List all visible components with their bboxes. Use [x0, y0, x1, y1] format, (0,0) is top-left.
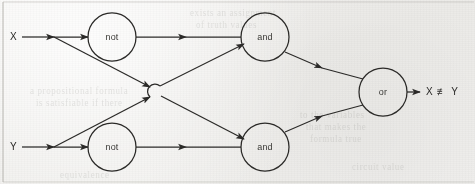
edge-and-bot-to-or	[285, 105, 363, 132]
input-label-y: Y	[10, 141, 17, 152]
node-or-label: or	[379, 87, 387, 97]
node-not-top-label: not	[105, 32, 118, 42]
edge-y-to-and-top	[54, 44, 244, 147]
node-and-bottom[interactable]: and	[241, 123, 289, 171]
page-border	[3, 2, 474, 182]
node-or[interactable]: or	[359, 68, 407, 116]
node-not-top[interactable]: not	[88, 13, 136, 61]
node-and-top-label: and	[257, 32, 273, 42]
output-label: X ≢ Y	[426, 86, 459, 97]
node-and-bottom-label: and	[257, 142, 273, 152]
logic-circuit-svg: not not and and or X Y X ≢ Y	[0, 0, 475, 184]
node-and-top[interactable]: and	[241, 13, 289, 61]
input-label-x: X	[10, 31, 17, 42]
diagram-canvas: a propositional formulais satisfiable if…	[0, 0, 475, 184]
node-not-bottom-label: not	[105, 142, 118, 152]
edge-and-top-to-or	[285, 52, 363, 79]
node-not-bottom[interactable]: not	[88, 123, 136, 171]
